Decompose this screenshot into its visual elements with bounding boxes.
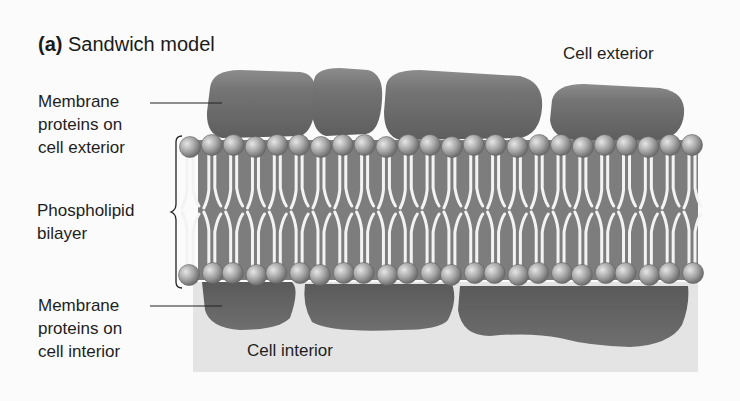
title-text: Sandwich model	[68, 33, 215, 55]
panel-letter: (a)	[38, 33, 62, 55]
interior-proteins	[202, 282, 688, 347]
int-proteins-label-3: cell interior	[38, 341, 120, 363]
bilayer-bracket	[171, 136, 182, 288]
int-proteins-label-1: Membrane	[38, 295, 119, 317]
bilayer-label-1: Phospholipid	[37, 200, 134, 222]
exterior-proteins	[207, 68, 684, 140]
ext-proteins-label-3: cell exterior	[38, 137, 125, 159]
ext-proteins-label-2: proteins on	[38, 114, 122, 136]
int-proteins-label-2: proteins on	[38, 318, 122, 340]
sandwich-model-figure: (a) Sandwich model Cell exterior Membran…	[0, 0, 740, 401]
bilayer-label-2: bilayer	[37, 223, 87, 245]
cell-exterior-label: Cell exterior	[563, 43, 654, 65]
cell-interior-label: Cell interior	[247, 340, 333, 362]
figure-title: (a) Sandwich model	[38, 33, 215, 56]
ext-proteins-label-1: Membrane	[38, 91, 119, 113]
